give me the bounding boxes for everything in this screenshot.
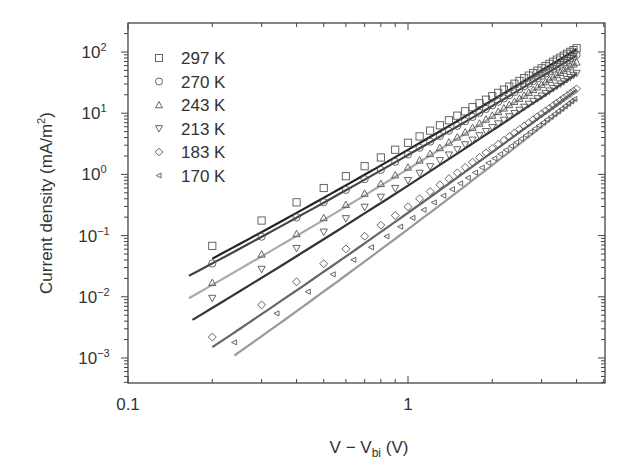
legend-item: 270 K — [156, 73, 227, 92]
legend-label: 270 K — [181, 73, 226, 92]
data-point — [209, 295, 216, 301]
data-point — [384, 234, 389, 239]
legend-marker-triangle-down-icon — [156, 126, 163, 132]
legend-label: 243 K — [181, 96, 226, 115]
data-point — [404, 139, 411, 146]
data-point — [293, 199, 300, 206]
data-point — [361, 204, 368, 210]
data-point — [342, 216, 349, 222]
data-point — [458, 181, 463, 186]
y-tick-label: 10−2 — [78, 286, 109, 307]
data-point — [441, 193, 446, 198]
series-183k — [208, 85, 580, 347]
fit-line — [189, 63, 577, 298]
data-point — [342, 173, 349, 180]
data-point — [361, 232, 369, 240]
data-point — [361, 163, 368, 170]
legend-item: 183 K — [155, 143, 226, 162]
y-tick-label: 10−3 — [78, 347, 109, 368]
data-point — [392, 185, 399, 191]
plot-area — [189, 45, 581, 356]
data-point — [479, 165, 484, 170]
data-point — [472, 170, 477, 175]
legend-marker-triangle-left-icon — [156, 173, 161, 178]
fit-line — [212, 49, 576, 259]
data-point — [330, 272, 335, 277]
data-point — [258, 217, 265, 224]
data-point — [398, 224, 403, 229]
data-point — [377, 154, 384, 161]
data-point — [377, 194, 384, 200]
data-point — [445, 117, 452, 124]
data-point — [320, 184, 327, 191]
data-point — [392, 146, 399, 153]
legend-label: 213 K — [181, 120, 226, 139]
data-point — [377, 221, 385, 229]
fit-line — [235, 99, 577, 355]
legend: 297 K270 K243 K213 K183 K170 K — [155, 49, 226, 186]
data-point — [498, 152, 503, 157]
data-point — [509, 144, 514, 149]
x-tick-label: 1 — [403, 395, 412, 414]
data-point — [351, 257, 356, 262]
data-point — [258, 266, 265, 272]
data-point — [518, 136, 523, 141]
data-point — [465, 175, 470, 180]
fit-line — [193, 74, 577, 320]
y-tick-label: 102 — [81, 41, 106, 62]
legend-label: 297 K — [181, 49, 226, 68]
legend-item: 243 K — [156, 96, 227, 115]
y-tick-label: 101 — [81, 102, 106, 123]
legend-marker-diamond-icon — [155, 148, 163, 156]
data-point — [320, 260, 328, 268]
data-point — [421, 207, 426, 212]
data-point — [416, 133, 423, 140]
data-point — [274, 311, 279, 316]
data-point — [427, 127, 434, 134]
data-point — [436, 122, 443, 129]
x-tick-label: 0.1 — [116, 395, 140, 414]
legend-label: 183 K — [181, 143, 226, 162]
data-point — [208, 333, 216, 341]
data-point — [449, 187, 454, 192]
data-point — [320, 229, 327, 235]
series-243k — [189, 59, 580, 299]
chart: 0.1110210110010−110−210−3 297 K270 K243 … — [0, 0, 639, 475]
legend-label: 170 K — [181, 167, 226, 186]
data-point — [503, 148, 508, 153]
y-axis-label: Current density (mA/m2) — [35, 112, 56, 294]
data-point — [410, 215, 415, 220]
y-tick-label: 10−1 — [78, 225, 109, 246]
data-point — [391, 212, 399, 220]
data-point — [305, 289, 310, 294]
data-point — [293, 278, 301, 286]
data-point — [258, 301, 266, 309]
data-point — [342, 245, 350, 253]
series-297k — [209, 45, 580, 259]
data-point — [293, 245, 300, 251]
legend-item: 213 K — [156, 120, 227, 139]
legend-marker-triangle-up-icon — [156, 102, 163, 108]
legend-marker-square-icon — [156, 55, 163, 62]
data-point — [369, 245, 374, 250]
y-tick-label: 100 — [81, 163, 106, 184]
data-point — [431, 200, 436, 205]
data-point — [492, 156, 497, 161]
legend-item: 170 K — [156, 167, 226, 186]
data-point — [232, 340, 237, 345]
data-point — [454, 112, 461, 119]
data-point — [209, 242, 216, 249]
legend-marker-circle-icon — [156, 78, 163, 85]
legend-item: 297 K — [156, 49, 227, 68]
series-213k — [193, 70, 581, 320]
data-point — [486, 160, 491, 165]
x-axis-label: V − Vbi (V) — [330, 438, 409, 460]
data-point — [514, 140, 519, 145]
